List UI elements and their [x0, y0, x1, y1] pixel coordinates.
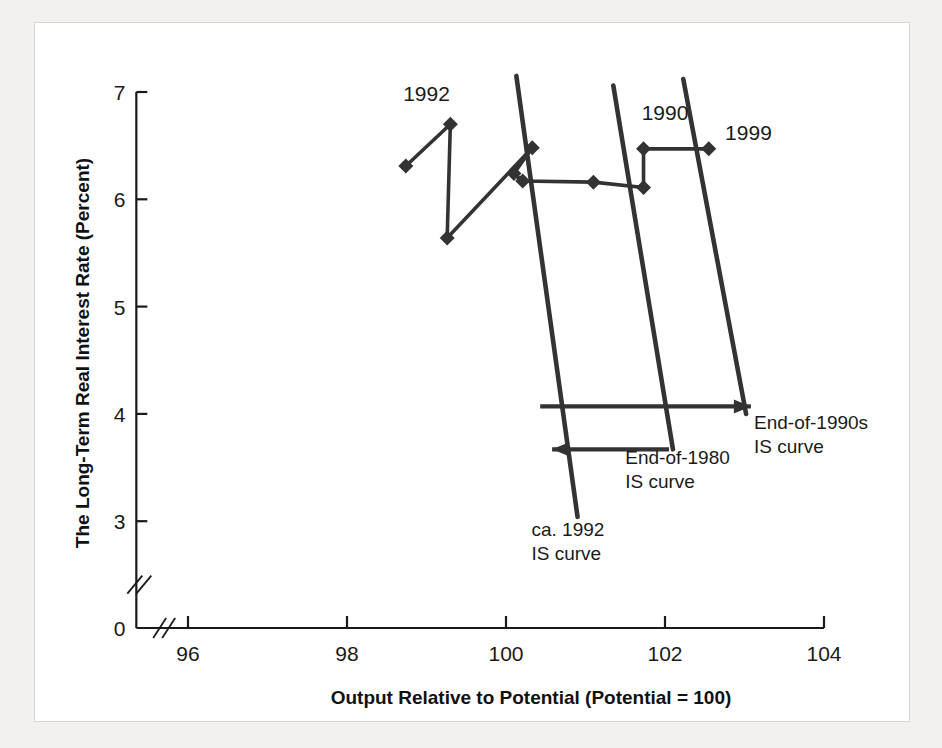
- y-axis-title: The Long-Term Real Interest Rate (Percen…: [72, 158, 93, 548]
- y-tick-label: 7: [114, 81, 126, 104]
- y-tick-label: 4: [114, 403, 126, 426]
- data-point-marker: [636, 180, 651, 195]
- ca-1992-is-curve-label-2: IS curve: [531, 543, 601, 564]
- x-tick-label: 104: [806, 642, 841, 665]
- y-zero-label: 0: [114, 617, 126, 640]
- data-point-marker: [586, 175, 601, 190]
- end-of-1980-is-curve: [613, 86, 673, 450]
- y-axis-break-icon: [127, 576, 151, 594]
- end-of-1990s-is-curve-label-2: IS curve: [754, 436, 824, 457]
- x-tick-label: 98: [335, 642, 358, 665]
- data-point-marker: [636, 141, 651, 156]
- end-of-1980-is-curve-label-2: IS curve: [625, 471, 695, 492]
- y-break-slash: [127, 576, 142, 594]
- end-of-1990s-is-curve-label: End-of-1990s: [754, 412, 868, 433]
- data-point-marker: [701, 141, 716, 156]
- figure-frame: 3456709698100102104 ca. 1992IS curveEnd-…: [34, 22, 910, 722]
- ca-1992-is-curve-label: ca. 1992: [531, 519, 604, 540]
- data-series-group: [398, 117, 716, 246]
- tick-labels-group: 3456709698100102104: [114, 81, 842, 665]
- x-tick-label: 102: [647, 642, 682, 665]
- y-break-slash: [136, 576, 151, 594]
- observed-path-line: [406, 124, 709, 238]
- year-label-1990: 1990: [642, 101, 689, 124]
- x-axis-title: Output Relative to Potential (Potential …: [331, 687, 732, 708]
- figure-page: 3456709698100102104 ca. 1992IS curveEnd-…: [0, 0, 942, 748]
- year-label-1992: 1992: [403, 82, 450, 105]
- end-of-1980-is-curve-label: End-of-1980: [625, 447, 730, 468]
- y-axis-ticks: [136, 92, 147, 521]
- leftward-shift-arrow-head: [552, 442, 569, 456]
- axes-group: [127, 92, 824, 638]
- y-tick-label: 3: [114, 510, 126, 533]
- annotations-group: ca. 1992IS curveEnd-of-1980IS curveEnd-o…: [403, 82, 868, 565]
- y-tick-label: 5: [114, 296, 126, 319]
- x-tick-label: 100: [488, 642, 523, 665]
- chart-canvas: 3456709698100102104 ca. 1992IS curveEnd-…: [35, 23, 911, 723]
- year-label-1999: 1999: [725, 121, 772, 144]
- x-axis-ticks: [188, 616, 824, 628]
- y-tick-label: 6: [114, 188, 126, 211]
- x-tick-label: 96: [176, 642, 199, 665]
